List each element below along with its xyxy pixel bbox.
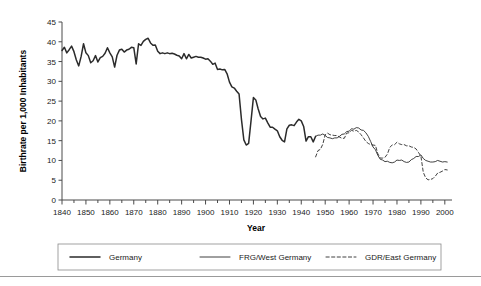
data-series-group [62, 38, 447, 180]
chart-legend: GermanyFRG/West GermanyGDR/East Germany [58, 244, 441, 270]
x-tick-label: 2000 [436, 208, 454, 217]
footer-divider [0, 276, 481, 277]
x-tick-label: 1990 [412, 208, 430, 217]
x-tick-label: 1930 [268, 208, 286, 217]
x-tick-label: 1840 [53, 208, 71, 217]
x-tick-label: 1870 [125, 208, 143, 217]
y-tick-label: 35 [47, 58, 56, 67]
x-tick-label: 1920 [245, 208, 263, 217]
chart-canvas: 051015202530354045 184018501860187018801… [0, 0, 481, 286]
x-tick-label: 1860 [101, 208, 119, 217]
y-tick-label: 20 [47, 117, 56, 126]
legend-label: GDR/East Germany [365, 253, 436, 262]
x-tick-label: 1960 [340, 208, 358, 217]
y-tick-label: 5 [52, 176, 57, 185]
x-tick-label: 1880 [149, 208, 167, 217]
x-tick-label: 1910 [221, 208, 239, 217]
x-tick-label: 1850 [77, 208, 95, 217]
y-tick-label: 30 [47, 77, 56, 86]
x-tick-label: 1900 [197, 208, 215, 217]
series-frg-west-germany [316, 128, 448, 163]
x-tick-label: 1980 [388, 208, 406, 217]
legend-label: FRG/West Germany [239, 253, 311, 262]
series-germany [62, 38, 316, 145]
y-tick-label: 40 [47, 38, 56, 47]
y-tick-label: 15 [47, 137, 56, 146]
x-axis-title: Year [247, 223, 266, 233]
y-axis-title: Birthrate per 1,000 Inhabitants [18, 50, 28, 173]
x-tick-label: 1890 [173, 208, 191, 217]
birthrate-chart-figure: 051015202530354045 184018501860187018801… [0, 0, 481, 286]
x-tick-label: 1940 [292, 208, 310, 217]
x-tick-label: 1950 [316, 208, 334, 217]
x-axis: 1840185018601870188018901900191019201930… [53, 200, 454, 217]
y-tick-label: 45 [47, 18, 56, 27]
legend-label: Germany [109, 253, 142, 262]
y-tick-label: 25 [47, 97, 56, 106]
y-axis: 051015202530354045 [47, 18, 62, 205]
y-tick-label: 10 [47, 156, 56, 165]
y-tick-label: 0 [52, 196, 57, 205]
x-tick-label: 1970 [364, 208, 382, 217]
